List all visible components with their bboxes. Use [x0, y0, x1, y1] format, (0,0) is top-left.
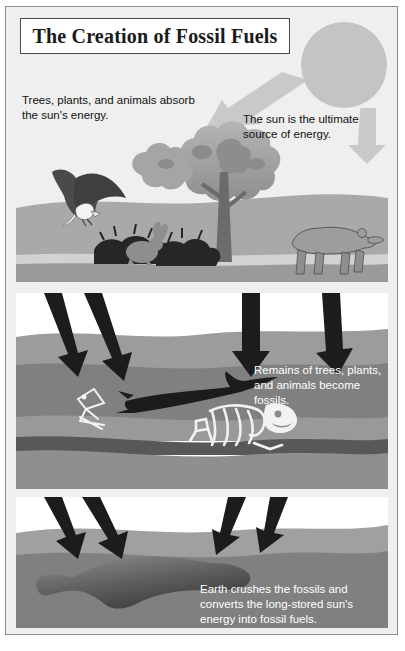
- earth-caption: Earth crushes the fossils and converts t…: [200, 582, 390, 627]
- sun-icon: [301, 22, 387, 108]
- infographic-poster: Trees, plants, and animals absorb the su…: [0, 0, 405, 651]
- page-title: The Creation of Fossil Fuels: [20, 18, 290, 54]
- page-title-text: The Creation of Fossil Fuels: [32, 25, 277, 48]
- remains-caption: Remains of trees, plants, and animals be…: [254, 363, 384, 408]
- trees-caption: Trees, plants, and animals absorb the su…: [22, 93, 212, 123]
- sun-caption: The sun is the ultimate source of energy…: [243, 112, 363, 142]
